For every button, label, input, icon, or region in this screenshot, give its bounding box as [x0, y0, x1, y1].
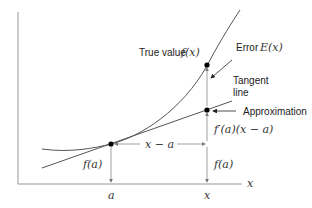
true-value-math: f(x) [180, 46, 200, 59]
function-curve [42, 10, 240, 150]
derivative-term-label: f′(a)(x − a) [213, 123, 273, 136]
fa-right-label: f(a) [213, 158, 233, 171]
point-true-value [204, 62, 209, 67]
approximation-label: Approximation [243, 106, 307, 117]
tangent-approximation-diagram: True value f(x) Error E(x) Tangent line … [0, 0, 312, 208]
tangent-label-1: Tangent [233, 75, 269, 86]
tick-x-label: x [204, 189, 211, 202]
fa-left-label: f(a) [82, 158, 102, 171]
tangent-label-2: line [233, 87, 249, 98]
error-math: E(x) [259, 41, 283, 54]
tangent-line [42, 101, 232, 168]
true-value-label: True value [139, 47, 186, 58]
point-approximation [204, 107, 209, 112]
point-a [108, 141, 113, 146]
error-pointer-arrow [211, 60, 232, 78]
tick-a-label: a [108, 189, 115, 202]
error-label: Error [236, 42, 259, 53]
span-label: x − a [145, 138, 174, 151]
x-axis-label: x [247, 177, 254, 190]
